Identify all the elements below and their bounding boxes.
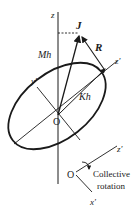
mh-label: Mh [37, 49, 51, 60]
y-prime-label: y′ [30, 76, 38, 86]
r-label: R [94, 41, 102, 53]
inset-origin-label: O [67, 169, 74, 180]
collective-caption-line2: rotation [97, 181, 125, 191]
collective-caption-line1: Collective [93, 169, 130, 179]
kh-label: Kh [78, 91, 91, 102]
inset-x-prime-label: x′ [89, 197, 97, 207]
z-axis-label: z [50, 10, 55, 20]
nuclear-coupling-diagram: z J R Mh z′ y′ Kh O O z′ x′ Collective r… [0, 0, 139, 214]
j-label: J [75, 19, 82, 31]
z-prime-label: z′ [114, 56, 122, 66]
j-vector [58, 36, 79, 115]
inset-x-prime-line [76, 175, 92, 192]
inset-z-prime-label: z′ [116, 144, 124, 154]
origin-label: O [53, 116, 60, 127]
